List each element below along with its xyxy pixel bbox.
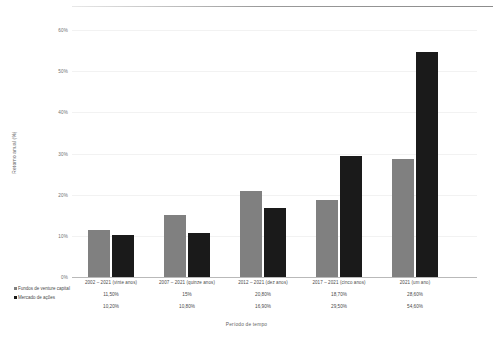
table-category-label: 2021 (um ano) bbox=[367, 279, 463, 286]
plot-area bbox=[72, 22, 477, 277]
x-axis-line bbox=[72, 277, 477, 278]
bar-vc bbox=[392, 159, 414, 277]
data-table: 2002 – 2021 (vinte anos)11,50%10,20%2007… bbox=[0, 279, 493, 324]
y-tick-label: 20% bbox=[28, 192, 68, 197]
y-axis-title: Retorno anual (%) bbox=[12, 93, 17, 213]
table-value-vc: 28,60% bbox=[367, 292, 463, 297]
bar-group bbox=[240, 191, 286, 277]
gridline bbox=[72, 30, 477, 31]
bar-group bbox=[392, 52, 438, 277]
bar-chart: Retorno anual (%) 0%10%20%30%40%50%60% F… bbox=[0, 0, 493, 339]
y-axis-tick-labels: 0%10%20%30%40%50%60% bbox=[26, 22, 68, 277]
bar-group bbox=[88, 230, 134, 277]
bar-group bbox=[316, 156, 362, 277]
table-value-mercado: 54,60% bbox=[367, 304, 463, 309]
bar-mercado bbox=[264, 208, 286, 278]
bar-mercado bbox=[188, 233, 210, 277]
x-axis-title: Período de tempo bbox=[0, 322, 493, 327]
bar-group bbox=[164, 215, 210, 277]
table-column: 2021 (um ano)28,60%54,60% bbox=[367, 279, 463, 309]
bar-vc bbox=[316, 200, 338, 277]
bar-vc bbox=[240, 191, 262, 277]
y-tick-label: 40% bbox=[28, 110, 68, 115]
bar-vc bbox=[164, 215, 186, 277]
y-tick-label: 30% bbox=[28, 151, 68, 156]
bar-mercado bbox=[416, 52, 438, 277]
y-tick-label: 50% bbox=[28, 69, 68, 74]
y-tick-label: 10% bbox=[28, 233, 68, 238]
bar-mercado bbox=[340, 156, 362, 277]
bar-vc bbox=[88, 230, 110, 277]
y-tick-label: 60% bbox=[28, 28, 68, 33]
bar-mercado bbox=[112, 235, 134, 277]
